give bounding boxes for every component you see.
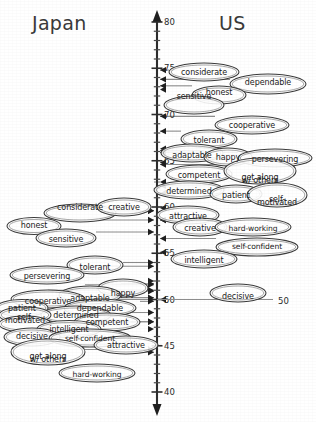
japan-trait-label: patient: [8, 304, 36, 313]
japan-trait-leader-arrow: [148, 309, 154, 315]
japan-trait-label: considerate: [57, 203, 103, 212]
us-trait-label: persevering: [252, 155, 299, 164]
japan-trait-label: decisive: [16, 332, 48, 341]
us-trait-label: decisive: [222, 292, 254, 301]
japan-trait-label: creative: [108, 203, 140, 212]
us-trait-label: creative: [184, 224, 216, 233]
axis-tick-label-45: 45: [164, 341, 175, 351]
japan-trait-leader-arrow: [148, 326, 154, 332]
axis-tick-label-80: 80: [164, 17, 175, 27]
us-trait-label: cooperative: [229, 121, 275, 130]
us-trait-label: attractive: [169, 212, 207, 221]
us-trait-leader-arrow: [160, 235, 166, 241]
trait-scale-plot: 80757065605550454050 consideratecreative…: [0, 0, 316, 422]
us-trait-label: adaptable: [172, 151, 212, 160]
japan-trait-label: motivated: [5, 316, 45, 325]
axis-tick-label-40: 40: [164, 387, 175, 397]
us-trait-leader-arrow: [160, 76, 166, 82]
us-trait-label: w/ others: [242, 176, 278, 185]
us-trait-label: hard-working: [229, 224, 278, 233]
axis-label-50: 50: [278, 296, 289, 306]
japan-trait-label: persevering: [24, 272, 71, 281]
japan-trait-label: attractive: [107, 341, 145, 350]
japan-trait-label: sensitive: [49, 235, 84, 244]
figure-root: Japan US 80757065605550454050 considerat…: [0, 0, 316, 422]
japan-trait-label: w/ others: [30, 355, 66, 364]
japan-trait-label: honest: [21, 221, 48, 230]
japan-trait-label: adaptable: [70, 294, 110, 303]
japan-trait-leader-arrow: [148, 319, 154, 325]
us-trait-label: happy: [216, 153, 241, 162]
us-trait-label: patient: [222, 191, 250, 200]
axis-arrow-down: [153, 404, 162, 416]
japan-trait-label: happy: [111, 289, 136, 298]
us-trait-label: tolerant: [194, 136, 225, 145]
us-trait-label: competent: [178, 171, 220, 180]
us-trait-label: determined: [166, 187, 211, 196]
us-trait-label: sensitive: [177, 92, 212, 101]
japan-trait-leader-arrow: [148, 229, 154, 235]
japan-trait-label: hard-working: [73, 370, 122, 379]
axis-arrow-up: [153, 10, 162, 22]
us-trait-label: considerate: [181, 68, 227, 77]
us-trait-label: intelligent: [184, 256, 223, 265]
us-trait-label: dependable: [245, 78, 291, 87]
japan-trait-leader-arrow: [148, 217, 154, 223]
us-trait-label: motivated: [257, 198, 297, 207]
japan-trait-label: tolerant: [80, 263, 111, 272]
us-trait-leader-arrow: [160, 128, 166, 134]
japan-trait-label: competent: [86, 318, 128, 327]
us-trait-label: self-confident: [232, 242, 282, 251]
